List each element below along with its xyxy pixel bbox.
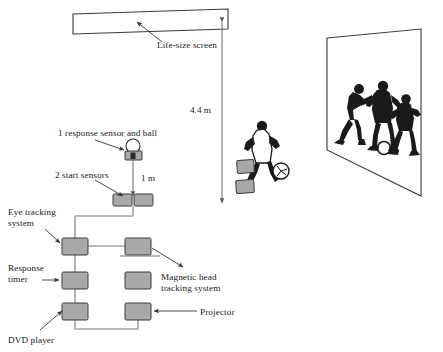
experimental-setup-figure: Life-size screen 4.4 m 1 m 1 response se… — [0, 0, 443, 352]
eye-tracking-leader — [45, 229, 60, 243]
dvd-player-leader — [40, 311, 62, 330]
start-sensor-right-icon — [134, 194, 153, 206]
magnetic-head-label-line1: Magnetic head — [161, 272, 217, 282]
projector-box — [125, 303, 151, 320]
unlabeled-unit-box — [125, 272, 151, 289]
response-sensor-and-ball-icon — [125, 139, 142, 160]
eye-tracking-system-box — [62, 238, 88, 255]
magnetic-head-tracking-system-box — [125, 238, 151, 255]
sensor-distance-label: 1 m — [141, 173, 155, 183]
eye-tracking-label-line1: Eye tracking — [8, 207, 56, 217]
eye-tracking-label-line2: system — [8, 218, 34, 228]
life-size-screen-shape — [73, 9, 228, 34]
participant-sensor-upper — [237, 159, 255, 173]
vertical-distance-label: 4.4 m — [190, 105, 211, 115]
dvd-player-label: DVD player — [8, 335, 54, 345]
response-timer-label-line2: timer — [8, 274, 28, 284]
participant-sensor-lower — [236, 180, 255, 194]
response-timer-label-line1: Response — [8, 263, 44, 273]
dvd-player-box — [62, 303, 88, 320]
response-sensor-leader — [95, 140, 124, 150]
response-timer-box — [62, 272, 88, 289]
diagram-canvas: Life-size screen 4.4 m 1 m 1 response se… — [0, 0, 443, 352]
response-sensor-label: 1 response sensor and ball — [58, 128, 157, 138]
participant-figure — [236, 121, 289, 194]
life-size-screen-label: Life-size screen — [157, 40, 217, 50]
projector-label: Projector — [200, 307, 235, 317]
magnetic-head-label-line2: tracking system — [161, 283, 220, 293]
start-sensors-label: 2 start sensors — [55, 170, 109, 180]
start-sensors-leader — [95, 180, 123, 196]
